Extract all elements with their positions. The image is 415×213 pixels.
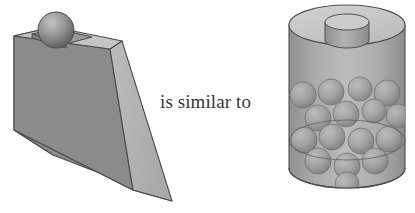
- inner-sphere: [362, 99, 386, 123]
- inner-sphere: [333, 101, 359, 127]
- inner-sphere: [319, 124, 345, 150]
- inner-sphere: [318, 79, 344, 105]
- cylinder-object: [289, 5, 410, 196]
- cylinder-knob-top: [325, 14, 369, 30]
- inner-sphere: [386, 104, 410, 128]
- inner-sphere: [348, 77, 372, 101]
- inner-sphere: [290, 82, 316, 108]
- inner-sphere: [335, 172, 359, 196]
- inner-sphere: [305, 148, 331, 174]
- wedge-object: [14, 12, 172, 201]
- relation-caption: is similar to: [160, 89, 260, 115]
- wedge-sphere: [38, 12, 74, 48]
- inner-sphere: [362, 148, 388, 174]
